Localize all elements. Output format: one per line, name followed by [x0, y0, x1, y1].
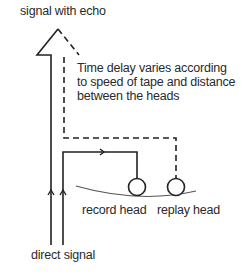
record-head-label: record head [82, 203, 147, 218]
signal-with-echo-label: signal with echo [20, 4, 106, 19]
replay-head-icon [168, 179, 185, 196]
replay-head-label: replay head [157, 203, 220, 218]
output-arrow-solid-edge [37, 29, 58, 245]
note-line-2: to speed of tape and distance [77, 75, 235, 89]
echo-diagram [0, 0, 247, 272]
output-arrow-dashed-edge [58, 29, 79, 55]
record-head-icon [129, 179, 146, 196]
note-line-1: Time delay varies according [77, 61, 235, 75]
record-path [63, 152, 137, 245]
time-delay-note: Time delay varies according to speed of … [77, 61, 235, 103]
note-line-3: between the heads [77, 89, 235, 103]
direct-signal-label: direct signal [31, 248, 95, 263]
